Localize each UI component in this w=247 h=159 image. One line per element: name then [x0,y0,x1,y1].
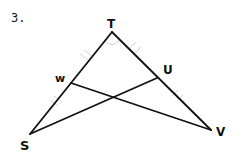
segment-tv [112,32,211,130]
angle-arc-t [105,41,119,45]
point-label-t: T [107,18,115,30]
point-label-w: w [55,73,65,84]
point-label-u: U [163,64,173,76]
triangle-diagram [0,0,247,159]
point-label-s: S [20,139,29,152]
point-label-v: V [216,126,225,138]
problem-number: 3. [11,12,25,24]
